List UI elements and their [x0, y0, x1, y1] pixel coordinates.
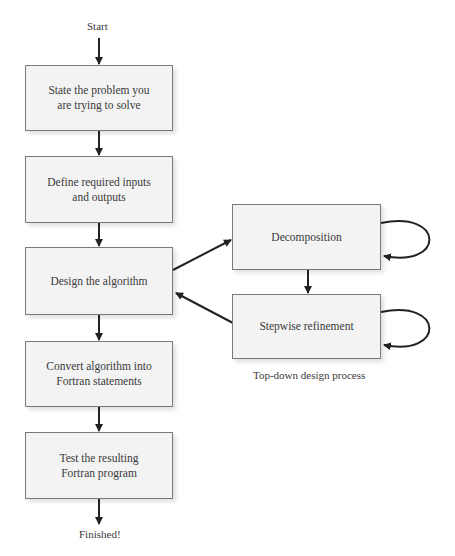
- step-design-algorithm: Design the algorithm: [25, 247, 173, 315]
- step-text: State the problem you: [48, 83, 149, 98]
- step-text: Define required inputs: [47, 175, 150, 190]
- step-state-problem: State the problem you are trying to solv…: [25, 65, 173, 131]
- subprocess-caption: Top-down design process: [253, 369, 365, 381]
- substep-text: Stepwise refinement: [259, 319, 353, 334]
- arrow-refinement-to-design: [176, 293, 233, 323]
- step-text: are trying to solve: [48, 98, 149, 113]
- arrow-design-to-decomposition: [173, 240, 231, 270]
- loop-decomposition: [381, 221, 429, 258]
- step-text: Test the resulting: [59, 451, 138, 466]
- step-convert-algorithm: Convert algorithm into Fortran statement…: [25, 341, 173, 407]
- substep-text: Decomposition: [271, 230, 341, 245]
- loop-refinement: [381, 310, 429, 347]
- step-test-program: Test the resulting Fortran program: [25, 432, 173, 499]
- substep-decomposition: Decomposition: [232, 204, 381, 270]
- step-text: Fortran statements: [46, 374, 151, 389]
- substep-stepwise-refinement: Stepwise refinement: [232, 294, 381, 359]
- step-text: Design the algorithm: [50, 274, 147, 289]
- step-define-io: Define required inputs and outputs: [25, 156, 173, 223]
- step-text: Fortran program: [59, 466, 138, 481]
- step-text: Convert algorithm into: [46, 359, 151, 374]
- start-label: Start: [87, 20, 108, 32]
- step-text: and outputs: [47, 190, 150, 205]
- end-label: Finished!: [79, 528, 121, 540]
